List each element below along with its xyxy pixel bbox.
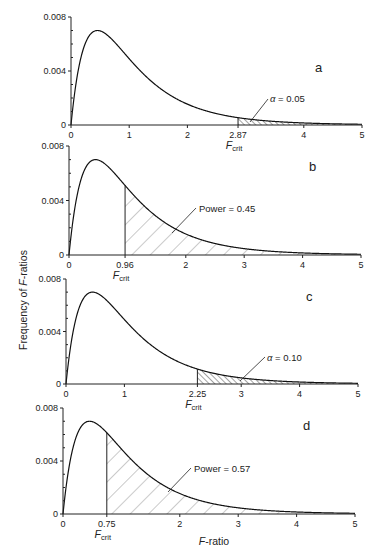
x-tick-label: 4	[297, 389, 302, 399]
panel-letter: d	[303, 418, 310, 433]
fcrit-label: Fcrit	[95, 528, 112, 542]
annotation-leader-line	[168, 468, 191, 492]
fcrit-label: Fcrit	[185, 398, 202, 412]
panel-letter: c	[306, 289, 313, 304]
x-tick-label: 0	[66, 260, 71, 270]
y-tick-label: 0.008	[35, 403, 58, 413]
x-tick-label: 5	[355, 389, 360, 399]
y-tick-label: 0	[56, 379, 61, 389]
y-tick-label: 0	[59, 250, 64, 260]
y-tick-label: 0	[61, 120, 66, 130]
fcrit-label: Fcrit	[113, 269, 130, 283]
y-tick-label: 0.008	[38, 274, 61, 284]
x-tick-label: 4	[301, 130, 306, 140]
x-tick-label: 1	[122, 389, 127, 399]
y-tick-label: 0.004	[35, 456, 58, 466]
f-distribution-figure: Frequency of F-ratios F-ratio 00.0040.00…	[0, 0, 378, 553]
x-tick-label: 0	[63, 389, 68, 399]
x-tick-label: 2	[183, 260, 188, 270]
fcrit-label: Fcrit	[226, 139, 243, 153]
y-tick-label: 0.004	[38, 327, 61, 337]
panel-c: 00.0040.008012.25345Fcritcα = 0.10	[38, 274, 360, 412]
annotation-leader-line	[250, 99, 268, 122]
annotation-label: α = 0.05	[270, 93, 305, 104]
x-tick-label: 3	[236, 519, 241, 529]
annotation-label: Power = 0.57	[194, 463, 250, 474]
shaded-tail-region	[197, 369, 358, 384]
panel-letter: b	[309, 159, 316, 174]
y-tick-label: 0.008	[41, 141, 64, 151]
annotation-leader-line	[172, 208, 196, 233]
x-tick-label: 1	[127, 130, 132, 140]
y-tick-label: 0	[53, 509, 58, 519]
x-tick-label: 0	[60, 519, 65, 529]
x-tick-label: 5	[359, 130, 364, 140]
annotation-leader-line	[240, 357, 265, 381]
panel-a: 00.0040.0080122.8745Fcritaα = 0.05	[43, 12, 364, 153]
x-tick-label: 5	[358, 260, 363, 270]
density-curve	[71, 31, 362, 126]
x-tick-label: 3	[239, 389, 244, 399]
x-tick-label: 4	[300, 260, 305, 270]
density-curve	[66, 292, 358, 384]
panel-d: 00.0040.00800.752345FcritdPower = 0.57	[35, 403, 357, 542]
panel-letter: a	[315, 60, 323, 75]
y-axis-label: Frequency of F-ratios	[17, 250, 29, 350]
y-tick-label: 0.004	[43, 66, 66, 76]
x-axis-label: F-ratio	[199, 535, 230, 547]
x-tick-label: 2	[177, 519, 182, 529]
x-tick-label: 3	[242, 260, 247, 270]
x-tick-label: 0	[68, 130, 73, 140]
x-tick-label: 5	[352, 519, 357, 529]
y-tick-label: 0.004	[41, 196, 64, 206]
x-tick-label: 4	[294, 519, 299, 529]
y-tick-label: 0.008	[43, 12, 66, 22]
x-tick-label: 2	[185, 130, 190, 140]
panel-b: 00.0040.00800.962345FcritbPower = 0.45	[41, 141, 363, 283]
annotation-label: Power = 0.45	[199, 203, 255, 214]
annotation-label: α = 0.10	[267, 352, 302, 363]
